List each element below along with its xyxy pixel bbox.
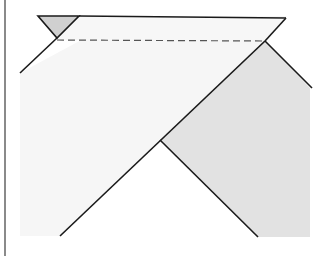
cross-section-diagram	[0, 0, 319, 256]
light-fill-upper	[57, 16, 287, 40]
